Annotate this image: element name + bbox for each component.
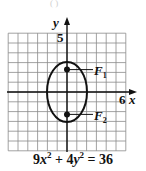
focus-1-dot	[64, 67, 70, 73]
y-axis-arrow-icon	[64, 17, 70, 25]
top-fragment-text: ( )	[50, 0, 58, 8]
eq-equals: =	[84, 152, 99, 167]
ellipse-equation: 9x2 + 4y2 = 36	[0, 152, 146, 168]
focus-2-label: F2	[93, 108, 107, 125]
x-axis-label: x	[128, 92, 136, 107]
focus-1-label: F1	[93, 63, 107, 80]
ellipse-figure: ( ) F1 F2 y 5 6 x 9x2 + 4y2 = 36	[0, 0, 146, 171]
eq-rhs: 36	[99, 152, 113, 167]
focus-2-dot	[64, 111, 70, 117]
eq-plus: +	[51, 152, 66, 167]
y-axis-label: y	[51, 15, 59, 30]
x-tick-label: 6	[119, 92, 126, 107]
eq-coef-1: 9	[33, 152, 40, 167]
axes	[7, 21, 133, 152]
eq-var-1: x	[40, 152, 47, 167]
ellipse-graph: ( ) F1 F2 y 5 6 x	[0, 0, 146, 171]
y-tick-label: 5	[57, 30, 64, 45]
